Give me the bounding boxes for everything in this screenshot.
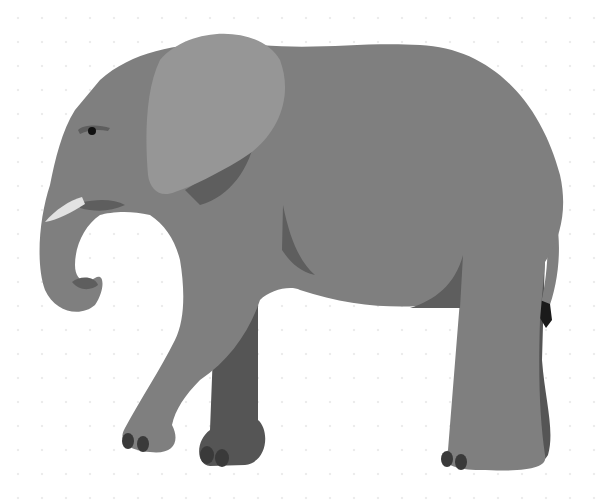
elephant-figure <box>0 0 603 503</box>
toenail-icon <box>215 449 229 467</box>
eye-icon <box>88 127 96 135</box>
body <box>40 43 564 470</box>
toenail-icon <box>122 433 134 449</box>
toenail-icon <box>137 436 149 452</box>
toenail-icon <box>455 454 467 470</box>
elephant-illustration <box>0 0 603 503</box>
toenail-icon <box>441 451 453 467</box>
toenail-icon <box>200 446 214 464</box>
